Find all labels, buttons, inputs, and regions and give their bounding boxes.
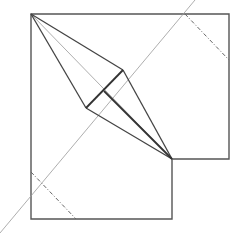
diagonal-reference-line (0, 0, 195, 233)
valley-fold-line-bottom-left (31, 172, 76, 219)
diagram-canvas (0, 0, 245, 241)
valley-fold-line-top-right (185, 14, 229, 60)
kite-edge-right-tip (123, 70, 172, 159)
kite-edge-apex-left (31, 14, 86, 108)
crease-pattern-svg (0, 0, 245, 241)
